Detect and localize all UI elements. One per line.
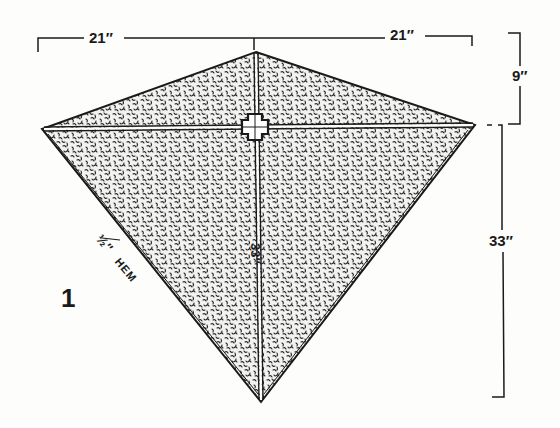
dimension-height-33: 33″ (486, 233, 516, 248)
dimension-top-right: 21″ (387, 27, 417, 42)
dimension-height-9: 9″ (509, 68, 531, 83)
figure-number: 1 (58, 285, 78, 311)
kite-diagram: 21″ 21″ 9″ 33″ 1 ½″ HEM 33″ (0, 0, 560, 428)
dimension-top-left: 21″ (86, 30, 116, 45)
kite-drawing (0, 0, 560, 428)
height-33-bracket (487, 125, 504, 397)
vertical-spar-length: 33″ (249, 240, 262, 267)
